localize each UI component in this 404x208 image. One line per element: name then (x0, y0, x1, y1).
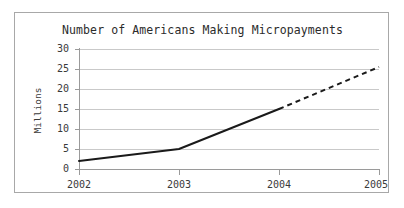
data-series-layer (15, 13, 390, 194)
series-line-projected (279, 67, 379, 109)
chart-frame: Number of Americans Making Micropayments… (14, 12, 389, 193)
series-line-actual (79, 109, 279, 161)
chart-figure: Number of Americans Making Micropayments… (0, 0, 404, 208)
